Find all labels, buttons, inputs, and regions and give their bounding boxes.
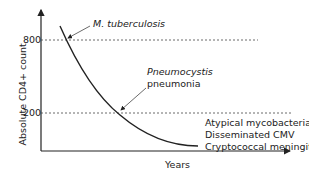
y-axis-label: Absolute CD4+ count — [17, 46, 28, 146]
tb-arrow — [68, 26, 90, 38]
tick-200: 200 — [23, 107, 41, 118]
x-axis-label: Years — [165, 159, 190, 170]
late-label-3: Cryptococcal meningitis — [205, 141, 309, 152]
tb-label: M. tuberculosis — [93, 18, 165, 29]
pcp-label-line2: pneumonia — [147, 78, 200, 89]
late-label-1: Atypical mycobacteria — [205, 117, 309, 128]
tick-800: 800 — [23, 34, 41, 45]
late-label-2: Disseminated CMV — [205, 129, 294, 140]
pcp-arrow — [121, 88, 146, 110]
pcp-label-line1: Pneumocystis — [147, 66, 213, 77]
